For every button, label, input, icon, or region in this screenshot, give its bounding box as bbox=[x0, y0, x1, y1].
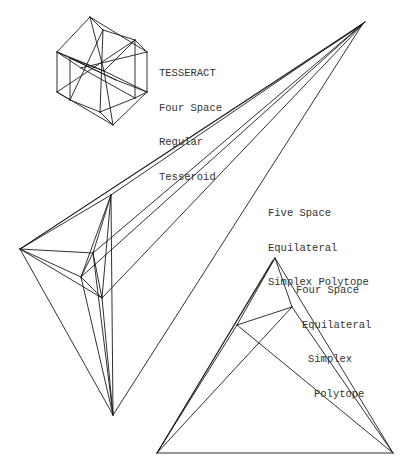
four-simplex-label-line-3: Simplex bbox=[296, 354, 371, 366]
five-simplex-edge bbox=[81, 253, 93, 277]
five-simplex-edge bbox=[93, 253, 113, 415]
five-simplex-edge bbox=[111, 22, 365, 195]
four-simplex-label-line-4: Polytope bbox=[296, 389, 371, 401]
five-simplex-label-line-1: Five Space bbox=[268, 208, 369, 220]
tesseract-figure bbox=[57, 17, 147, 125]
tesseract-label-line-1: TESSERACT bbox=[159, 68, 222, 80]
five-simplex-edge bbox=[81, 277, 113, 415]
tesseract-edge bbox=[57, 40, 135, 92]
five-simplex-edge bbox=[20, 249, 81, 277]
five-simplex-edge bbox=[111, 195, 113, 415]
five-simplex-edge bbox=[20, 249, 113, 415]
four-simplex-label-line-2: Equilateral bbox=[296, 320, 371, 332]
four-simplex-edge bbox=[157, 260, 273, 453]
five-simplex-edge bbox=[20, 249, 93, 253]
tesseract-edge bbox=[104, 71, 147, 92]
four-simplex-edge bbox=[157, 307, 292, 453]
tesseract-label-line-4: Tesseroid bbox=[159, 172, 222, 184]
tesseract-label: TESSERACT Four Space Regular Tesseroid bbox=[159, 45, 222, 195]
tesseract-label-line-2: Four Space bbox=[159, 103, 222, 115]
five-simplex-edge bbox=[81, 195, 111, 277]
tesseract-edge bbox=[57, 92, 70, 100]
tesseract-edge bbox=[100, 98, 135, 112]
tesseract-label-line-3: Regular bbox=[159, 137, 222, 149]
tesseract-edge bbox=[57, 17, 90, 52]
tesseract-edge bbox=[100, 30, 103, 112]
tesseract-edge bbox=[104, 40, 135, 71]
four-space-simplex-label: Four Space Equilateral Simplex Polytope bbox=[296, 262, 371, 412]
tesseract-edge bbox=[113, 92, 147, 125]
five-simplex-label-line-2: Equilateral bbox=[268, 243, 369, 255]
four-simplex-edge bbox=[157, 325, 237, 453]
tesseract-edge bbox=[135, 92, 147, 98]
tesseract-edge bbox=[70, 100, 100, 112]
five-simplex-edge bbox=[20, 249, 102, 298]
four-simplex-label-line-1: Four Space bbox=[296, 285, 371, 297]
tesseract-edge bbox=[103, 30, 135, 40]
five-simplex-edge bbox=[20, 195, 111, 249]
